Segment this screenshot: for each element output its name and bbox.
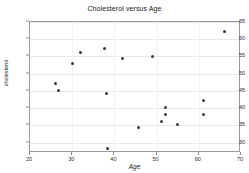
- data-point: [202, 113, 205, 116]
- x-axis-tick-mark: [29, 152, 30, 155]
- y-axis-tick-mark: [26, 124, 29, 125]
- y-axis-tick-label: 45: [239, 87, 245, 93]
- data-point: [71, 62, 74, 65]
- gridline-horizontal: [30, 22, 239, 23]
- gridline-vertical: [72, 22, 73, 151]
- gridline-horizontal: [30, 143, 239, 144]
- x-axis-tick-mark: [198, 152, 199, 155]
- x-axis-label: Age: [29, 163, 240, 170]
- x-axis-tick-label: 50: [153, 156, 159, 162]
- data-point: [105, 92, 108, 95]
- gridline-vertical: [199, 22, 200, 151]
- gridline-horizontal: [30, 74, 239, 75]
- x-axis-tick-label: 20: [26, 156, 32, 162]
- data-point: [160, 120, 163, 123]
- y-axis-tick-mark: [26, 55, 29, 56]
- y-axis-tick-mark: [26, 38, 29, 39]
- x-axis-tick-label: 70: [237, 156, 243, 162]
- x-axis-tick-label: 40: [110, 156, 116, 162]
- data-point: [103, 47, 106, 50]
- data-point: [164, 106, 167, 109]
- data-point: [79, 51, 82, 54]
- gridline-vertical: [114, 22, 115, 151]
- y-axis-tick-label: 55: [239, 52, 245, 58]
- data-point: [54, 82, 57, 85]
- gridline-horizontal: [30, 56, 239, 57]
- x-axis-tick-label: 60: [195, 156, 201, 162]
- y-axis-tick-label: 65: [239, 18, 245, 24]
- scatter-plot-figure: Cholesterol versus Age cholesterol Age 3…: [0, 0, 249, 173]
- chart-title: Cholesterol versus Age: [0, 5, 249, 12]
- data-point: [202, 99, 205, 102]
- gridline-horizontal: [30, 39, 239, 40]
- y-axis-tick-mark: [26, 107, 29, 108]
- data-point: [164, 113, 167, 116]
- data-point: [121, 57, 124, 60]
- y-axis-tick-mark: [26, 89, 29, 90]
- data-point: [137, 126, 140, 129]
- data-point: [151, 55, 154, 58]
- plot-area: [29, 21, 240, 152]
- x-axis-tick-mark: [113, 152, 114, 155]
- y-axis-tick-label: 60: [239, 35, 245, 41]
- y-axis-tick-label: 50: [239, 70, 245, 76]
- y-axis-tick-label: 35: [239, 121, 245, 127]
- x-axis-tick-mark: [240, 152, 241, 155]
- y-axis-label: cholesterol: [3, 43, 9, 103]
- y-axis-tick-label: 40: [239, 104, 245, 110]
- y-axis-tick-label: 30: [239, 139, 245, 145]
- x-axis-tick-mark: [156, 152, 157, 155]
- y-axis-tick-mark: [26, 141, 29, 142]
- gridline-vertical: [157, 22, 158, 151]
- x-axis-tick-mark: [71, 152, 72, 155]
- data-point: [106, 147, 109, 150]
- y-axis-tick-mark: [26, 21, 29, 22]
- gridline-horizontal: [30, 108, 239, 109]
- y-axis-tick-mark: [26, 72, 29, 73]
- gridline-horizontal: [30, 91, 239, 92]
- x-axis-tick-label: 30: [68, 156, 74, 162]
- gridline-horizontal: [30, 125, 239, 126]
- data-point: [223, 30, 226, 33]
